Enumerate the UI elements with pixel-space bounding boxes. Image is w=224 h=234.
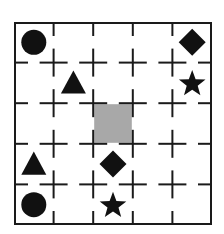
highlighted-cell xyxy=(94,104,132,143)
circle-icon xyxy=(21,30,46,55)
triangle-icon xyxy=(21,152,46,175)
grid-canvas xyxy=(14,22,212,225)
triangle-icon xyxy=(61,70,86,93)
star-icon xyxy=(179,70,206,95)
circle-icon xyxy=(21,192,46,217)
star-icon xyxy=(100,192,127,217)
diamond-icon xyxy=(100,151,127,178)
puzzle-grid xyxy=(14,22,212,225)
diamond-icon xyxy=(179,29,206,56)
